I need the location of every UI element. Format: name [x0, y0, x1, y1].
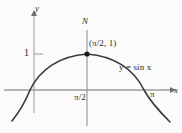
y-axis	[31, 10, 37, 113]
plot-canvas	[0, 0, 182, 133]
x-axis-label: x	[174, 86, 178, 95]
sine-curve-figure: y x 1 N (π/2, 1) y = sin x π/2 π	[0, 0, 182, 133]
max-point-marker	[84, 51, 89, 56]
vertical-line-label-n: N	[82, 17, 88, 26]
y-tick-label-one: 1	[24, 48, 29, 58]
x-tick-label-pi: π	[150, 90, 155, 99]
max-point-label: (π/2, 1)	[89, 39, 116, 48]
x-tick-label-pi-half: π/2	[74, 93, 86, 102]
y-axis-label: y	[35, 4, 39, 13]
curve-equation-label: y = sin x	[119, 63, 151, 72]
